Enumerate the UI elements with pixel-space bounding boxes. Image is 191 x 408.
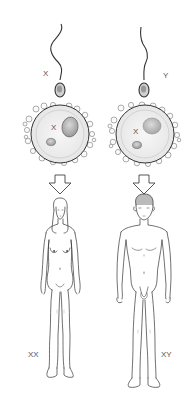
sperm-icon: [139, 27, 149, 97]
sperm-y-label: Y: [163, 72, 168, 80]
sex-determination-diagram: X Y X X XX XY: [0, 0, 191, 408]
egg-x-label-left: X: [51, 124, 56, 132]
sperm-icon: [51, 24, 65, 97]
down-arrow-icon: [49, 175, 71, 194]
result-xy-label: XY: [161, 351, 172, 359]
down-arrow-icon: [133, 175, 155, 194]
egg-cell-icon: [108, 102, 181, 167]
result-xx-label: XX: [28, 351, 39, 359]
egg-x-label-right: X: [133, 128, 138, 136]
diagram-artwork: [0, 0, 191, 408]
egg-cell-icon: [23, 102, 96, 165]
female-figure-icon: [41, 198, 80, 377]
sperm-x-label: X: [43, 70, 48, 78]
